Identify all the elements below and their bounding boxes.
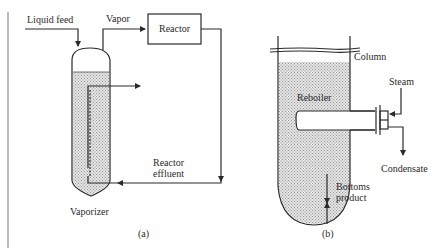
- vaporizer-liquid: [73, 72, 109, 195]
- condensate-label: Condensate: [381, 163, 428, 174]
- column-label: Column: [354, 51, 386, 62]
- bottoms-label-1: Bottoms: [336, 181, 370, 192]
- column-break: [270, 48, 360, 49]
- reactor-effluent-label-1: Reactor: [153, 157, 185, 168]
- reactor-label: Reactor: [159, 23, 191, 34]
- reactor-effluent-line: [201, 29, 221, 181]
- vapor-line: [103, 29, 145, 50]
- diagram-a: Liquid feed Vapor Reactor Reactor efflue…: [25, 13, 221, 240]
- process-diagram: Liquid feed Vapor Reactor Reactor efflue…: [0, 0, 445, 251]
- liquid-feed-label: Liquid feed: [27, 14, 73, 25]
- condensate-line: [388, 127, 403, 155]
- steam-label: Steam: [389, 76, 414, 87]
- reactor-effluent-label-2: effluent: [153, 168, 184, 179]
- bottoms-label-2: product: [336, 192, 367, 203]
- caption-b: (b): [322, 228, 334, 240]
- caption-a: (a): [138, 228, 149, 240]
- vaporizer-label: Vaporizer: [70, 206, 110, 217]
- vapor-label: Vapor: [106, 13, 131, 24]
- steam-line: [390, 88, 401, 114]
- liquid-feed-line: [25, 29, 78, 46]
- reboiler-label: Reboiler: [297, 92, 332, 103]
- diagram-b: Column Steam Condensate Reboiler Bottoms…: [270, 36, 428, 240]
